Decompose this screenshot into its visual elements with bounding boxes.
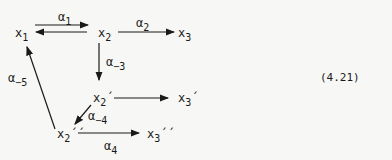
edge-label-alpha4: α4 <box>104 140 117 153</box>
node-x3-double-prime: x3´´ <box>147 128 175 141</box>
node-x2-prime: x2´ <box>93 92 114 105</box>
edge-label-alpha-minus4: α−4 <box>88 110 107 123</box>
node-x2: x2 <box>98 27 111 40</box>
node-x3-prime: x3´ <box>178 92 199 105</box>
node-x3: x3 <box>178 27 191 40</box>
equation-number: (4.21) <box>320 71 360 84</box>
arrow-x2pp-to-x1 <box>27 47 55 129</box>
edge-label-alpha2: α2 <box>136 17 149 30</box>
node-x1: x1 <box>15 27 28 40</box>
edge-label-alpha-minus5: α−5 <box>8 72 27 85</box>
node-x2-double-prime: x2´´ <box>57 128 85 141</box>
edge-label-alpha-minus3: α−3 <box>106 56 125 69</box>
edge-label-alpha1: α1 <box>58 11 71 24</box>
